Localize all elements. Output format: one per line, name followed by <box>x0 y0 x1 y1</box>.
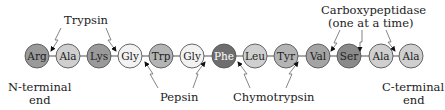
residue-label: Arg <box>26 50 47 62</box>
residue-label: Leu <box>245 50 265 62</box>
n-terminal-label-line1: N-terminal <box>8 80 72 94</box>
pepsin-label: Pepsin <box>160 90 199 104</box>
residue-label: Lys <box>90 50 108 62</box>
carboxypeptidase-arrow-2 <box>360 30 362 51</box>
residue-phe: Phe <box>212 44 236 68</box>
carboxypeptidase-label-line2: (one at a time) <box>328 16 413 30</box>
carboxypeptidase-label-line1: Carboxypeptidase <box>321 3 426 17</box>
n-terminal-label-line2: end <box>29 93 51 107</box>
residue-label: Gly <box>183 50 201 62</box>
chymotrypsin-label: Chymotrypsin <box>233 90 315 104</box>
residue-lys: Lys <box>87 44 111 68</box>
residue-ala: Ala <box>369 44 393 68</box>
peptide-cleavage-diagram: ArgAlaLysGlyTrpGlyPheLeuTyrValSerAlaAla … <box>0 0 445 110</box>
residue-label: Tyr <box>277 50 296 62</box>
residue-label: Ala <box>401 50 419 62</box>
residue-val: Val <box>306 44 330 68</box>
residue-leu: Leu <box>243 44 267 68</box>
residue-trp: Trp <box>149 44 173 68</box>
residue-tyr: Tyr <box>274 44 298 68</box>
residue-label: Phe <box>214 50 234 62</box>
residue-label: Trp <box>152 50 171 62</box>
residue-ala: Ala <box>56 44 80 68</box>
residue-arg: Arg <box>25 44 49 68</box>
residue-label: Gly <box>121 50 139 62</box>
residue-label: Val <box>309 50 327 62</box>
residue-gly: Gly <box>118 44 142 68</box>
residue-ser: Ser <box>337 44 361 68</box>
carboxypeptidase-arrow-1 <box>331 30 340 51</box>
residue-label: Ser <box>340 50 359 62</box>
residue-gly: Gly <box>180 44 204 68</box>
residue-ala: Ala <box>399 44 423 68</box>
c-terminal-label-line2: end <box>403 93 425 107</box>
residue-label: Ala <box>371 50 389 62</box>
residue-label: Ala <box>58 50 76 62</box>
c-terminal-label-line1: C-terminal <box>382 80 444 94</box>
trypsin-label: Trypsin <box>64 13 109 27</box>
